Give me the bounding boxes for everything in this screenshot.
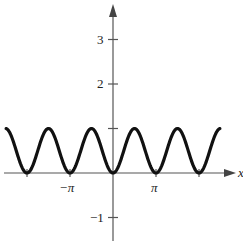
- plot-area: [0, 0, 243, 247]
- axes: [4, 4, 236, 241]
- x-axis-arrow-icon: [224, 169, 236, 177]
- x-tick-label-neg-pi: −π: [59, 181, 74, 194]
- y-tick-label-neg1: −1: [90, 211, 104, 224]
- y-tick-label-2: 2: [97, 77, 104, 90]
- x-tick-label-pi: π: [151, 181, 158, 194]
- chart-container: 3 2 −1 −π π x: [0, 0, 243, 247]
- y-tick-label-3: 3: [97, 33, 104, 46]
- x-axis-label: x: [238, 166, 243, 179]
- y-axis-arrow-icon: [109, 4, 117, 17]
